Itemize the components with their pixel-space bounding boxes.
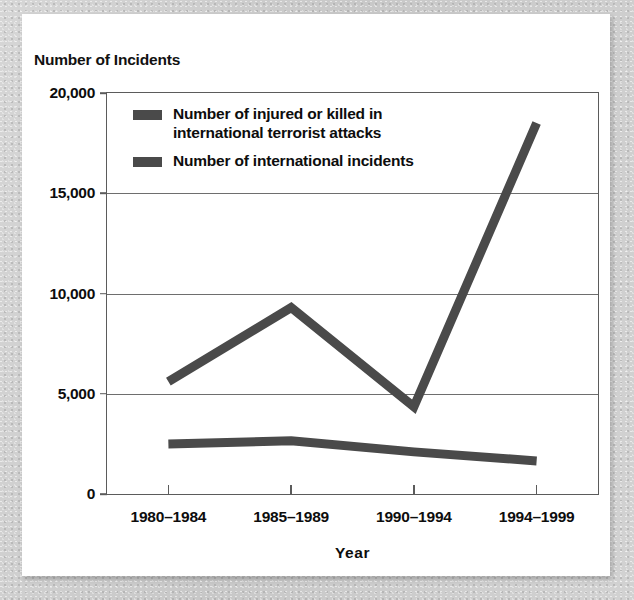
x-tick-label: 1994–1999 (499, 508, 575, 526)
chart-card: Number of Incidents 05,00010,00015,00020… (22, 14, 610, 576)
legend-label-international-incidents: Number of international incidents (173, 152, 414, 171)
y-tick-mark (100, 393, 107, 395)
y-tick-label: 10,000 (49, 285, 95, 303)
y-tick-label: 5,000 (58, 385, 95, 403)
y-tick-label: 15,000 (49, 184, 95, 202)
legend-item: Number of injured or killed in internati… (133, 105, 473, 143)
y-tick-mark (100, 192, 107, 194)
x-axis-title: Year (335, 544, 370, 562)
x-tick-label: 1985–1989 (253, 508, 329, 526)
legend-item: Number of international incidents (133, 152, 473, 171)
series-line-international-incidents (168, 441, 536, 461)
x-tick-label: 1980–1984 (130, 508, 206, 526)
legend-swatch-international-incidents (133, 157, 162, 167)
y-tick-label: 20,000 (49, 84, 95, 102)
legend-swatch-injured-killed (133, 110, 162, 120)
page-background: Number of Incidents 05,00010,00015,00020… (0, 0, 634, 600)
legend: Number of injured or killed in internati… (133, 105, 473, 180)
chart-title: Number of Incidents (34, 51, 180, 69)
y-tick-mark (100, 92, 107, 94)
legend-label-injured-killed: Number of injured or killed in internati… (173, 105, 473, 143)
plot-area: 05,00010,00015,00020,000 1980–19841985–1… (106, 92, 599, 495)
y-tick-mark (100, 493, 107, 495)
y-tick-label: 0 (87, 485, 95, 503)
y-tick-mark (100, 293, 107, 295)
x-tick-label: 1990–1994 (376, 508, 452, 526)
